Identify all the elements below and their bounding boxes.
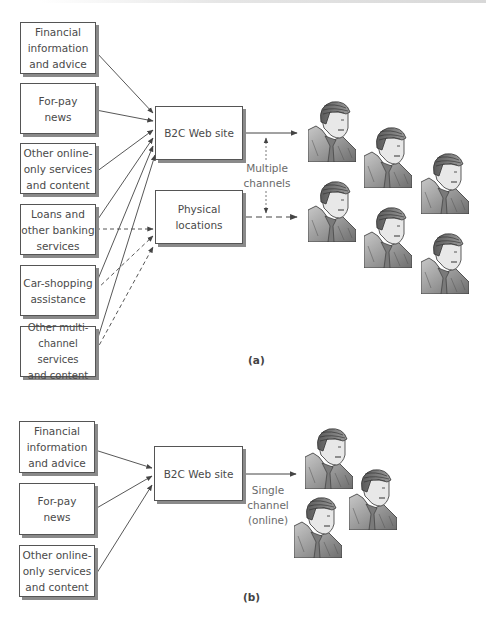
source-box-online-only-services: Other online- only services and content <box>19 545 95 597</box>
customer-icon <box>294 496 342 558</box>
physical-connectors-a <box>96 229 153 351</box>
customer-icon <box>308 180 356 242</box>
source-box-for-pay-news: For-pay news <box>20 83 96 134</box>
figure-a-caption: (a) <box>248 354 265 366</box>
customer-icon <box>349 468 397 530</box>
customer-icon <box>308 100 356 162</box>
customer-icon <box>364 206 412 268</box>
source-box-multichannel-services: Other multi- channel services and conten… <box>20 326 96 377</box>
customer-icon <box>421 232 469 294</box>
source-box-financial-info: Financial information and advice <box>20 22 96 74</box>
physical-locations-box: Physical locations <box>155 190 243 244</box>
source-box-loans-banking: Loans and other banking services <box>20 204 96 255</box>
customer-icon <box>364 126 412 188</box>
b2c-web-site-box: B2C Web site <box>155 106 243 160</box>
source-box-financial-info: Financial information and advice <box>19 421 95 473</box>
online-connectors-a <box>96 52 155 344</box>
single-channel-label: Single channel (online) <box>240 483 296 528</box>
source-box-car-shopping: Car-shopping assistance <box>20 265 96 316</box>
b2c-web-site-box: B2C Web site <box>154 446 243 501</box>
multiple-channels-label: Multiple channels <box>238 161 296 191</box>
customer-icon <box>421 152 469 214</box>
online-connectors-b <box>95 450 152 576</box>
source-box-for-pay-news: For-pay news <box>19 483 95 535</box>
customer-icon <box>305 427 353 489</box>
source-box-online-only-services: Other online- only services and content <box>20 143 96 194</box>
figure-b-caption: (b) <box>243 591 260 603</box>
